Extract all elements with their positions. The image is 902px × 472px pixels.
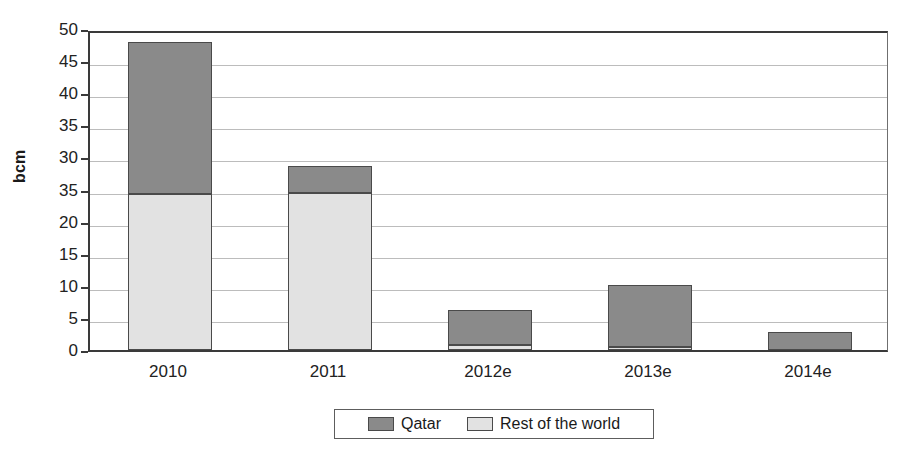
bar-segment-qatar[interactable] — [768, 332, 852, 350]
y-tick-label: 40 — [30, 84, 78, 104]
y-tick-mark — [81, 287, 88, 289]
y-tick-mark — [81, 30, 88, 32]
y-tick-label: 45 — [30, 52, 78, 72]
y-tick-label: 35 — [30, 116, 78, 136]
legend-swatch — [467, 417, 493, 431]
bar-segment-qatar[interactable] — [448, 310, 532, 345]
bar-segment-qatar[interactable] — [128, 42, 212, 194]
x-tick-label: 2012e — [408, 362, 568, 382]
bar-group[interactable] — [608, 29, 692, 350]
y-tick-label: 5 — [30, 309, 78, 329]
y-tick-label: 50 — [30, 20, 78, 40]
bar-segment-qatar[interactable] — [608, 285, 692, 347]
y-tick-label: 10 — [30, 277, 78, 297]
bar-segment-rest-of-the-world[interactable] — [448, 345, 532, 350]
y-tick-mark — [81, 126, 88, 128]
y-tick-mark — [81, 191, 88, 193]
x-tick-label: 2011 — [248, 362, 408, 382]
bar-segment-rest-of-the-world[interactable] — [128, 194, 212, 350]
y-axis-title: bcm — [11, 155, 29, 183]
legend-item[interactable]: Qatar — [368, 415, 441, 433]
bar-group[interactable] — [288, 29, 372, 350]
y-tick-label: 0 — [30, 341, 78, 361]
y-tick-mark — [81, 94, 88, 96]
y-tick-mark — [81, 351, 88, 353]
chart-legend: QatarRest of the world — [334, 409, 654, 439]
bar-segment-rest-of-the-world[interactable] — [288, 193, 372, 350]
legend-label: Rest of the world — [500, 415, 620, 433]
y-tick-mark — [81, 319, 88, 321]
x-tick-label: 2013e — [568, 362, 728, 382]
bar-group[interactable] — [768, 29, 852, 350]
y-tick-mark — [81, 62, 88, 64]
bar-segment-rest-of-the-world[interactable] — [608, 347, 692, 350]
x-tick-label: 2014e — [728, 362, 888, 382]
legend-swatch — [368, 417, 394, 431]
x-tick-label: 2010 — [88, 362, 248, 382]
bar-group[interactable] — [128, 29, 212, 350]
plot-area — [88, 31, 888, 352]
bar-segment-qatar[interactable] — [288, 166, 372, 193]
y-tick-mark — [81, 158, 88, 160]
y-tick-mark — [81, 255, 88, 257]
y-tick-label: 30 — [30, 148, 78, 168]
y-tick-mark — [81, 223, 88, 225]
y-tick-label: 35 — [30, 181, 78, 201]
legend-label: Qatar — [401, 415, 441, 433]
legend-item[interactable]: Rest of the world — [467, 415, 620, 433]
chart-figure: bcm 50454035303520151050 201020112012e20… — [0, 0, 902, 472]
y-tick-label: 15 — [30, 245, 78, 265]
y-tick-label: 20 — [30, 213, 78, 233]
bar-group[interactable] — [448, 29, 532, 350]
